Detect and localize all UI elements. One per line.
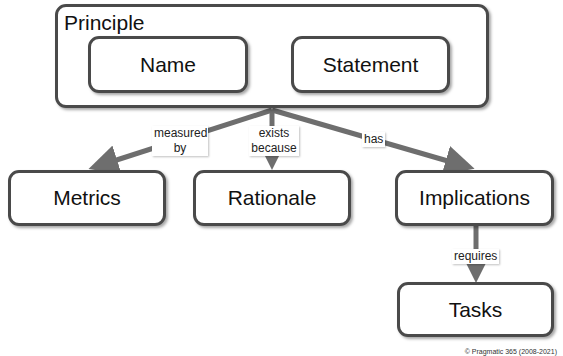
edge-label-has: has (362, 132, 385, 147)
node-name: Name (88, 36, 248, 93)
edge-label-measured-by: measured by (152, 126, 208, 156)
edge-label-line: exists (251, 126, 297, 141)
node-implications: Implications (395, 170, 554, 226)
edge-label-line: by (154, 141, 206, 156)
principle-title: Principle (64, 11, 145, 35)
node-implications-label: Implications (419, 186, 530, 210)
node-metrics: Metrics (8, 170, 166, 226)
node-statement-label: Statement (323, 53, 419, 77)
edge-label-line: because (251, 141, 297, 156)
node-name-label: Name (140, 53, 196, 77)
edge-label-exists-because: exists because (249, 126, 299, 156)
node-rationale-label: Rationale (228, 186, 317, 210)
node-rationale: Rationale (193, 170, 351, 226)
edge-label-line: measured (154, 126, 206, 141)
edge-label-requires: requires (452, 249, 499, 264)
node-metrics-label: Metrics (53, 186, 121, 210)
copyright: © Pragmatic 365 (2008-2021) (465, 348, 557, 355)
node-statement: Statement (291, 36, 450, 93)
node-tasks: Tasks (397, 282, 554, 337)
node-tasks-label: Tasks (449, 298, 503, 322)
